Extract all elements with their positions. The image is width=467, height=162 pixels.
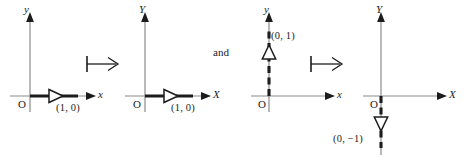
axes-group-codomain-e1 xyxy=(115,0,225,162)
vector-label-T-e2: (0, −1) xyxy=(333,134,363,145)
axes-group-domain-e1 xyxy=(0,0,110,162)
horizontal-axis-arrowhead xyxy=(201,92,211,100)
vector-label-e1: (1, 0) xyxy=(56,103,80,114)
vector-arrowhead-e2 xyxy=(262,45,275,59)
panel-domain-e1: y x O (1, 0) xyxy=(0,0,110,162)
horizontal-axis-arrowhead xyxy=(437,92,447,100)
horizontal-axis-label: X xyxy=(449,89,456,100)
mapsto-icon-2 xyxy=(308,52,350,76)
origin-label: O xyxy=(18,99,26,110)
panel-codomain-e1: Y X O (1, 0) xyxy=(115,0,225,162)
origin-label: O xyxy=(133,99,141,110)
vector-arrowhead-T-e1 xyxy=(164,90,178,103)
origin-label: O xyxy=(258,99,266,110)
vector-label-e2: (0, 1) xyxy=(271,31,295,42)
vertical-axis-label: y xyxy=(24,4,29,15)
origin-label: O xyxy=(370,99,378,110)
horizontal-axis-label: X xyxy=(213,89,220,100)
vertical-axis-label: Y xyxy=(376,4,382,15)
horizontal-axis-arrowhead xyxy=(325,92,335,100)
horizontal-axis-label: x xyxy=(98,89,103,100)
vector-label-T-e1: (1, 0) xyxy=(171,103,195,114)
linear-map-figure: y x O (1, 0) Y X O (1, 0) and xyxy=(0,0,467,162)
conjunction-and: and xyxy=(213,46,229,58)
vector-arrowhead-e1 xyxy=(49,90,63,103)
horizontal-axis-arrowhead xyxy=(86,92,96,100)
panel-codomain-e2: Y X O (0, −1) xyxy=(357,0,467,162)
horizontal-axis-label: x xyxy=(337,89,342,100)
vertical-axis-label: y xyxy=(264,4,269,15)
axes-group-codomain-e2 xyxy=(357,0,467,162)
vector-arrowhead-T-e2 xyxy=(374,117,387,131)
vertical-axis-label: Y xyxy=(139,4,145,15)
